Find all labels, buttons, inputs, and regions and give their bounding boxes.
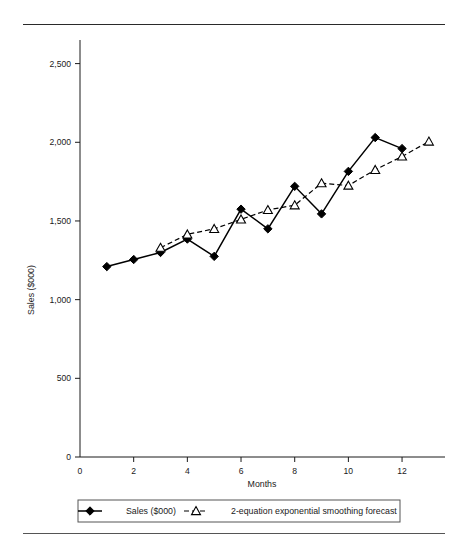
y-tick-label: 0 [66, 452, 71, 462]
series-forecast [156, 137, 433, 251]
data-point-triangle [263, 206, 272, 214]
data-point-triangle [371, 165, 380, 173]
x-tick-label: 4 [185, 466, 190, 476]
x-tick-label: 8 [292, 466, 297, 476]
x-tick-label: 0 [78, 466, 83, 476]
legend-label: Sales ($000) [126, 506, 176, 516]
data-point-diamond [129, 255, 137, 263]
legend-label: 2-equation exponential smoothing forecas… [231, 506, 397, 516]
data-point-diamond [103, 262, 111, 270]
legend-marker-diamond [86, 507, 94, 515]
y-axis-title: Sales ($000) [26, 265, 36, 315]
x-tick-label: 12 [397, 466, 407, 476]
series-actual-sales [103, 133, 407, 270]
data-point-triangle [210, 224, 219, 232]
x-tick-label: 6 [239, 466, 244, 476]
series-line [107, 138, 402, 267]
x-tick-label: 2 [131, 466, 136, 476]
series-line [161, 141, 429, 247]
legend-item-forecast[interactable]: 2-equation exponential smoothing forecas… [184, 506, 397, 516]
figure-container: 05001,0001,5002,0002,500 024681012 Sales… [0, 0, 469, 553]
y-tick-label: 1,000 [49, 295, 71, 305]
y-tick-label: 2,500 [49, 59, 71, 69]
y-tick-label: 500 [57, 373, 72, 383]
line-chart: 05001,0001,5002,0002,500 024681012 Sales… [0, 0, 469, 553]
y-axis-ticks: 05001,0001,5002,0002,500 [49, 59, 80, 462]
data-point-diamond [210, 252, 218, 260]
x-axis-title: Months [248, 479, 277, 489]
data-point-triangle [156, 243, 165, 251]
x-tick-label: 10 [344, 466, 354, 476]
data-point-triangle [424, 137, 433, 145]
legend-layer[interactable]: Sales ($000)2-equation exponential smoot… [78, 506, 397, 516]
x-axis-ticks: 024681012 [78, 457, 407, 476]
series-layer [103, 133, 434, 270]
y-tick-label: 2,000 [49, 137, 71, 147]
legend-item-sales[interactable]: Sales ($000) [78, 506, 176, 516]
y-tick-label: 1,500 [49, 216, 71, 226]
data-point-triangle [317, 179, 326, 187]
data-point-triangle [398, 152, 407, 160]
